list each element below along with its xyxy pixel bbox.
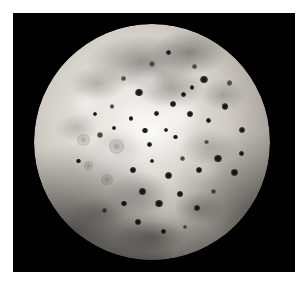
io-disk — [34, 24, 270, 260]
image-canvas — [0, 0, 305, 284]
io-limb-darkening — [34, 24, 270, 260]
photo-frame — [13, 13, 295, 272]
